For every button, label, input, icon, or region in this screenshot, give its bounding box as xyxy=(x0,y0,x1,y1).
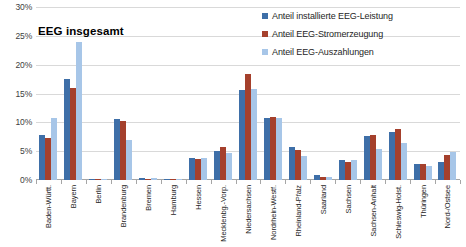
x-tick xyxy=(161,180,162,184)
bar-group xyxy=(136,7,161,180)
bar xyxy=(426,166,432,180)
bar-group xyxy=(186,7,211,180)
bar xyxy=(226,153,232,180)
x-tick xyxy=(136,180,137,184)
x-tick xyxy=(61,180,62,184)
legend-item[interactable]: Anteil EEG-Auszahlungen xyxy=(262,47,393,57)
bar-group xyxy=(211,7,236,180)
x-axis-label: Niedersachsen xyxy=(243,185,252,234)
x-tick xyxy=(86,180,87,184)
x-axis-label: Sachsen xyxy=(343,185,352,214)
x-axis-label: Hessen xyxy=(194,185,203,210)
legend-swatch-icon xyxy=(262,31,268,37)
x-label-cell: Niedersachsen xyxy=(236,185,261,247)
x-label-cell: Baden-Württ. xyxy=(36,185,61,247)
x-tick xyxy=(385,180,386,184)
bar-group xyxy=(236,7,261,180)
x-tick xyxy=(285,180,286,184)
chart-legend: Anteil installierte EEG-LeistungAnteil E… xyxy=(262,11,393,57)
legend-item[interactable]: Anteil installierte EEG-Leistung xyxy=(262,11,393,21)
x-axis-label: Bremen xyxy=(144,185,153,211)
x-axis-label: Saarland xyxy=(318,185,327,214)
x-tick xyxy=(186,180,187,184)
bar-group xyxy=(161,7,186,180)
x-tick xyxy=(236,180,237,184)
x-label-cell: Hessen xyxy=(186,185,211,247)
bar xyxy=(351,160,357,180)
legend-swatch-icon xyxy=(262,13,268,19)
x-tick xyxy=(335,180,336,184)
x-label-cell: Nord-/Ostsee xyxy=(435,185,460,247)
bar xyxy=(401,143,407,180)
eeg-bar-chart: 30%25%20%15%10%5%0% Baden-Württ.BayernBe… xyxy=(0,0,466,247)
legend-label: Anteil EEG-Auszahlungen xyxy=(272,47,374,57)
x-axis-label: Schleswig-Holst. xyxy=(393,185,402,239)
x-tick xyxy=(36,180,37,184)
x-tick xyxy=(360,180,361,184)
x-label-cell: Nordrhein-Westf. xyxy=(260,185,285,247)
x-axis-label: Nord-/Ostsee xyxy=(443,185,452,228)
x-tick xyxy=(460,180,461,184)
x-tick xyxy=(310,180,311,184)
x-label-cell: Rheinland-Pfalz xyxy=(285,185,310,247)
legend-label: Anteil installierte EEG-Leistung xyxy=(272,11,393,21)
y-tick-label: 0% xyxy=(20,175,32,185)
bar xyxy=(126,140,132,180)
legend-item[interactable]: Anteil EEG-Stromerzeugung xyxy=(262,29,393,39)
y-tick-label: 25% xyxy=(16,31,32,41)
y-axis: 30%25%20%15%10%5%0% xyxy=(0,0,36,180)
x-axis-label: Brandenburg xyxy=(119,185,128,227)
bar-group xyxy=(435,7,460,180)
bar xyxy=(51,118,57,180)
x-axis-label: Baden-Württ. xyxy=(44,185,53,228)
bar xyxy=(276,118,282,180)
x-tick xyxy=(260,180,261,184)
x-axis-label: Bayern xyxy=(69,185,78,208)
bar xyxy=(450,152,456,180)
x-tick xyxy=(435,180,436,184)
x-tick xyxy=(211,180,212,184)
x-axis-label: Thüringen xyxy=(418,185,427,218)
bar xyxy=(201,158,207,180)
x-axis-label: Nordrhein-Westf. xyxy=(268,185,277,240)
bar xyxy=(301,156,307,180)
x-label-cell: Mecklenbg.-Vorp. xyxy=(211,185,236,247)
bar xyxy=(76,42,82,180)
y-tick-label: 5% xyxy=(20,146,32,156)
x-label-cell: Bayern xyxy=(61,185,86,247)
x-label-cell: Sachsen xyxy=(335,185,360,247)
x-tick xyxy=(111,180,112,184)
x-label-cell: Hamburg xyxy=(161,185,186,247)
bar-group xyxy=(410,7,435,180)
x-label-cell: Saarland xyxy=(310,185,335,247)
x-axis-label: Hamburg xyxy=(169,185,178,215)
x-label-cell: Thüringen xyxy=(410,185,435,247)
legend-label: Anteil EEG-Stromerzeugung xyxy=(272,29,383,39)
y-tick-label: 15% xyxy=(16,89,32,99)
x-axis-label: Berlin xyxy=(94,185,103,204)
x-tick xyxy=(410,180,411,184)
bar xyxy=(376,149,382,180)
x-axis-label: Rheinland-Pfalz xyxy=(293,185,302,236)
x-label-cell: Brandenburg xyxy=(111,185,136,247)
y-tick-label: 10% xyxy=(16,117,32,127)
bar xyxy=(251,89,257,180)
x-axis-labels: Baden-Württ.BayernBerlinBrandenburgBreme… xyxy=(36,185,460,247)
x-label-cell: Bremen xyxy=(136,185,161,247)
x-axis-label: Sachsen-Anhalt xyxy=(368,185,377,237)
y-tick-label: 20% xyxy=(16,60,32,70)
chart-title: EEG insgesamt xyxy=(38,25,124,37)
legend-swatch-icon xyxy=(262,49,268,55)
x-label-cell: Schleswig-Holst. xyxy=(385,185,410,247)
x-label-cell: Sachsen-Anhalt xyxy=(360,185,385,247)
x-label-cell: Berlin xyxy=(86,185,111,247)
x-axis-label: Mecklenbg.-Vorp. xyxy=(219,185,228,242)
y-tick-label: 30% xyxy=(16,2,32,12)
